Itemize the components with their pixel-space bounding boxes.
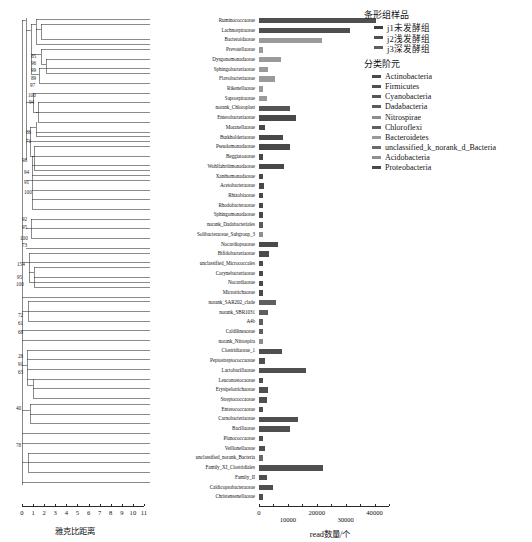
taxon-label: Pseudomonadaceae xyxy=(120,142,257,152)
legend-item-phylum[interactable]: unclassified_k_norank_d_Bacteria xyxy=(372,142,532,152)
support-value: 91 xyxy=(24,180,29,185)
axis-tick xyxy=(288,504,289,507)
support-value: 71 xyxy=(26,139,31,144)
taxa-label-column: Ruminococcaceae Lachnospiraceae Bacteroi… xyxy=(120,16,257,502)
axis-title: 雅克比距离 xyxy=(0,524,150,536)
taxon-label: Enterobacteriaceae xyxy=(120,113,257,123)
legend-swatch-icon xyxy=(372,75,381,78)
bar xyxy=(259,485,273,490)
legend-swatch-icon xyxy=(372,116,381,119)
bar-row xyxy=(259,317,379,327)
bar-row xyxy=(259,337,379,347)
axis-jaccard-distance: 01234567891011 雅克比距离 xyxy=(0,500,150,542)
bar xyxy=(259,251,269,256)
bar xyxy=(259,475,267,480)
legend-swatch-icon xyxy=(374,46,383,49)
axis-tick xyxy=(33,504,34,507)
taxon-label: unclassified_Micrococcales xyxy=(120,259,257,269)
bar xyxy=(259,368,306,373)
taxon-label: A4b xyxy=(120,317,257,327)
bar-row xyxy=(259,201,379,211)
bar-row xyxy=(259,414,379,424)
legend-item-phylum[interactable]: Cyanobacteria xyxy=(372,92,532,102)
legend-swatch-icon xyxy=(374,36,383,39)
taxon-label: Veillonellaceae xyxy=(120,444,257,454)
legend-label: Acidobacteria xyxy=(385,153,430,162)
bar-row xyxy=(259,453,379,463)
support-value: 94 xyxy=(29,100,34,105)
bar-row xyxy=(259,298,379,308)
legend-item-group[interactable]: j3深发酵组 xyxy=(374,43,532,53)
legend-item-phylum[interactable]: Dadabacteria xyxy=(372,102,532,112)
legend-label: Bacteroidetes xyxy=(385,133,429,142)
legend-swatch-icon xyxy=(372,156,381,159)
bar xyxy=(259,339,263,344)
taxon-label: Nocardiopsaceae xyxy=(120,240,257,250)
bar xyxy=(259,154,263,159)
taxon-label: Wohlfahrtiimonadaceae xyxy=(120,162,257,172)
legend-item-phylum[interactable]: Chloroflexi xyxy=(372,122,532,132)
legend-label: Proteobacteria xyxy=(385,163,431,172)
axis-read-count: 010000200003000040000 read数量/个 xyxy=(240,500,420,542)
support-value: 95 xyxy=(22,225,27,230)
axis-tick xyxy=(55,504,56,507)
legend-label: Actinobacteria xyxy=(385,72,432,81)
legend-swatch-icon xyxy=(372,126,381,129)
bar-row xyxy=(259,220,379,230)
taxon-label: Bacteroidaceae xyxy=(120,35,257,45)
bar xyxy=(259,329,263,334)
taxon-label: Saprospiraceae xyxy=(120,94,257,104)
bar xyxy=(259,106,290,111)
support-value: 72 xyxy=(18,313,23,318)
support-value: 100 xyxy=(28,93,36,98)
taxon-label: Family_XI_Clostridiales xyxy=(120,463,257,473)
legend-swatch-icon xyxy=(372,136,381,139)
legend-item-phylum[interactable]: Bacteroidetes xyxy=(372,132,532,142)
bar xyxy=(259,76,275,81)
axis-tick xyxy=(360,504,361,507)
bar-row xyxy=(259,249,379,259)
axis-tick xyxy=(77,504,78,507)
taxon-label: Sphingomonadaceae xyxy=(120,210,257,220)
bar-row xyxy=(259,356,379,366)
bar xyxy=(259,417,298,422)
support-value: 85 xyxy=(31,54,36,59)
figure-canvas: 85 96 99 89 97 100 94 86 71 98 94 91 100… xyxy=(0,0,532,542)
legend-item-phylum[interactable]: Nitrospirae xyxy=(372,112,532,122)
taxon-label: Burkholderiaceae xyxy=(120,133,257,143)
taxon-label: unclassified_norank_Bacteria xyxy=(120,453,257,463)
bar-row xyxy=(259,288,379,298)
legend-item-phylum[interactable]: Actinobacteria xyxy=(372,71,532,81)
taxon-label: Sphingobacteriaceae xyxy=(120,65,257,75)
legend-label: Firmicutes xyxy=(385,82,419,91)
axis-line xyxy=(259,506,389,507)
legend-item-phylum[interactable]: Proteobacteria xyxy=(372,163,532,173)
taxon-label: norank_Dadabacteriales xyxy=(120,220,257,230)
bar-row xyxy=(259,473,379,483)
bar-row xyxy=(259,181,379,191)
bar xyxy=(259,290,263,295)
taxon-label: Enterococcaceae xyxy=(120,405,257,415)
taxon-label: Dysgonomonadaceae xyxy=(120,55,257,65)
legend-item-phylum[interactable]: Firmicutes xyxy=(372,81,532,91)
support-value: 97 xyxy=(30,83,35,88)
legend-item-phylum[interactable]: Acidobacteria xyxy=(372,153,532,163)
bar xyxy=(259,38,322,43)
support-value: 78 xyxy=(16,443,21,448)
bar xyxy=(259,261,263,266)
taxon-label: Xanthomonadaceae xyxy=(120,172,257,182)
bar xyxy=(259,86,263,91)
taxon-label: Bifidobacteriaceae xyxy=(120,249,257,259)
taxon-label: Rikenellaceae xyxy=(120,84,257,94)
axis-tick-label: 0 xyxy=(241,509,277,516)
bar xyxy=(259,212,263,217)
support-value: 86 xyxy=(26,130,31,135)
taxon-label: Rhizobiaceae xyxy=(120,191,257,201)
bar xyxy=(259,446,265,451)
bar-row xyxy=(259,483,379,493)
bar xyxy=(259,426,290,431)
legend-swatch-icon xyxy=(372,146,381,149)
support-value: 61 xyxy=(18,321,23,326)
bar xyxy=(259,222,263,227)
bar-row xyxy=(259,434,379,444)
